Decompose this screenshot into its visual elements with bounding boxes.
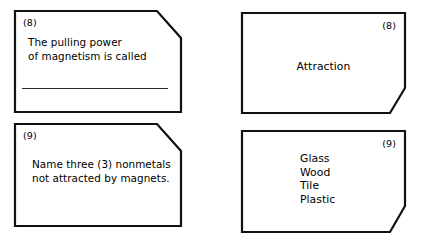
- card-answer-text: Attraction: [241, 60, 406, 74]
- flashcard-grid: (8) The pulling power of magnetism is ca…: [0, 0, 422, 242]
- card-content: (9) Name three (3) nonmetals not attract…: [14, 123, 182, 227]
- flashcard-question-8[interactable]: (8) The pulling power of magnetism is ca…: [14, 10, 182, 113]
- card-content: (8) The pulling power of magnetism is ca…: [14, 10, 182, 113]
- card-answer-text: Glass Wood Tile Plastic: [300, 152, 335, 206]
- card-content: (8) Attraction: [241, 12, 406, 114]
- card-number-label: (8): [23, 18, 37, 28]
- card-question-text: The pulling power of magnetism is called: [28, 36, 147, 63]
- flashcard-question-9[interactable]: (9) Name three (3) nonmetals not attract…: [14, 123, 182, 227]
- answer-blank-line: [22, 88, 168, 89]
- card-number-label: (9): [23, 131, 37, 141]
- flashcard-answer-8[interactable]: (8) Attraction: [241, 12, 406, 114]
- card-question-text: Name three (3) nonmetals not attracted b…: [32, 158, 171, 185]
- card-number-label: (8): [382, 21, 396, 31]
- card-number-label: (9): [382, 139, 396, 149]
- card-content: (9) Glass Wood Tile Plastic: [241, 130, 406, 233]
- flashcard-answer-9[interactable]: (9) Glass Wood Tile Plastic: [241, 130, 406, 233]
